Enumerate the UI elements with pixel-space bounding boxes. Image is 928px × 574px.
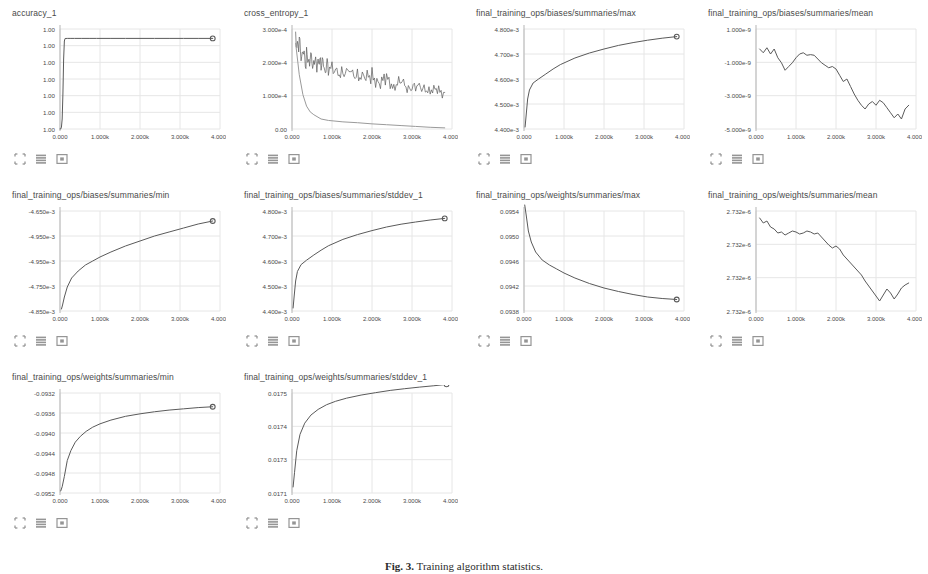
expand-axes-icon[interactable] — [478, 153, 490, 165]
chart-card: cross_entropy_13.000e-42.000e-41.000e-40… — [232, 0, 464, 182]
chart-svg[interactable]: 0.09540.09500.09460.09420.09380.0001.000… — [472, 203, 690, 331]
data-table-icon[interactable] — [267, 153, 279, 165]
y-axis-tick-label: 2.000e-4 — [263, 59, 288, 66]
y-axis-tick-label: 4.800e-3 — [263, 208, 288, 215]
fullscreen-icon[interactable] — [752, 153, 764, 165]
y-axis-tick-label: 1.00 — [43, 76, 56, 83]
x-axis-tick-label: 1.000k — [787, 134, 806, 140]
expand-axes-icon[interactable] — [710, 153, 722, 165]
chart-svg[interactable]: 0.01750.01740.01730.01710.0001.000k2.000… — [240, 385, 458, 513]
x-axis-tick-label: 3.000k — [635, 316, 654, 322]
chart-svg[interactable]: 4.800e-34.700e-34.600e-34.500e-34.400e-3… — [472, 21, 690, 149]
fullscreen-icon[interactable] — [520, 153, 532, 165]
expand-axes-icon[interactable] — [246, 153, 258, 165]
expand-axes-icon[interactable] — [14, 153, 26, 165]
fullscreen-icon[interactable] — [288, 153, 300, 165]
expand-axes-icon[interactable] — [246, 335, 258, 347]
y-axis-tick-label: 1.00 — [43, 92, 56, 99]
chart-line-series — [296, 43, 445, 128]
fullscreen-icon[interactable] — [56, 517, 68, 529]
data-table-icon[interactable] — [499, 153, 511, 165]
fullscreen-icon[interactable] — [56, 153, 68, 165]
fullscreen-icon[interactable] — [520, 335, 532, 347]
expand-axes-icon[interactable] — [14, 335, 26, 347]
y-axis-tick-label: 0.0954 — [500, 208, 519, 215]
y-axis-tick-label: -0.0944 — [34, 450, 56, 457]
x-axis-tick-label: 4.000k — [443, 134, 458, 140]
y-axis-tick-label: -0.0936 — [34, 410, 56, 417]
y-axis-tick-label: -3.000e-9 — [725, 92, 752, 99]
data-table-icon[interactable] — [499, 335, 511, 347]
chart-toolbar — [14, 334, 226, 348]
data-table-icon[interactable] — [35, 335, 47, 347]
chart-svg[interactable]: 4.800e-34.700e-34.600e-34.500e-34.400e-3… — [240, 203, 458, 331]
chart-line-series — [760, 218, 909, 301]
fullscreen-icon[interactable] — [752, 335, 764, 347]
y-axis-tick-label: 1.00 — [43, 126, 56, 133]
data-table-icon[interactable] — [35, 517, 47, 529]
y-axis-tick-label: -4.750e-3 — [29, 283, 56, 290]
chart-svg[interactable]: 1.000e-9-1.000e-9-3.000e-9-5.000e-90.000… — [704, 21, 922, 149]
chart-plot-area[interactable]: 0.01750.01740.01730.01710.0001.000k2.000… — [240, 385, 458, 513]
x-axis-tick-label: 3.000k — [867, 134, 886, 140]
data-table-icon[interactable] — [267, 335, 279, 347]
chart-plot-area[interactable]: 1.000e-9-1.000e-9-3.000e-9-5.000e-90.000… — [704, 21, 922, 149]
x-axis-tick-label: 1.000k — [555, 134, 574, 140]
y-axis-tick-label: -4.650e-3 — [29, 208, 56, 215]
data-table-icon[interactable] — [731, 153, 743, 165]
chart-plot-area[interactable]: 0.09540.09500.09460.09420.09380.0001.000… — [472, 203, 690, 331]
charts-grid: accuracy_11.001.001.001.001.001.001.000.… — [0, 0, 928, 546]
x-axis-tick-label: 3.000k — [867, 316, 886, 322]
chart-plot-area[interactable]: 3.000e-42.000e-41.000e-40.000.0001.000k2… — [240, 21, 458, 149]
x-axis-tick-label: 3.000k — [171, 134, 190, 140]
chart-line-series — [525, 37, 677, 127]
x-axis-tick-label: 2.000k — [363, 316, 382, 322]
chart-plot-area[interactable]: -0.0932-0.0936-0.0940-0.0944-0.0948-0.09… — [8, 385, 226, 513]
figure-caption-label: Fig. 3. — [385, 560, 414, 572]
expand-axes-icon[interactable] — [14, 517, 26, 529]
chart-title: final_training_ops/biases/summaries/max — [476, 8, 690, 19]
expand-axes-icon[interactable] — [246, 517, 258, 529]
chart-plot-area[interactable]: 2.732e-62.732e-62.732e-62.732e-60.0001.0… — [704, 203, 922, 331]
chart-svg[interactable]: 1.001.001.001.001.001.001.000.0001.000k2… — [8, 21, 226, 149]
x-axis-tick-label: 0.000 — [52, 316, 68, 322]
y-axis-tick-label: 0.0174 — [268, 423, 287, 430]
fullscreen-icon[interactable] — [288, 517, 300, 529]
chart-title: final_training_ops/weights/summaries/min — [12, 372, 226, 383]
x-axis-tick-label: 2.000k — [363, 134, 382, 140]
chart-plot-area[interactable]: 1.001.001.001.001.001.001.000.0001.000k2… — [8, 21, 226, 149]
y-axis-tick-label: 2.732e-6 — [727, 208, 752, 215]
y-axis-tick-label: 1.00 — [43, 42, 56, 49]
fullscreen-icon[interactable] — [288, 335, 300, 347]
chart-svg[interactable]: -0.0932-0.0936-0.0940-0.0944-0.0948-0.09… — [8, 385, 226, 513]
chart-title: final_training_ops/biases/summaries/mean — [708, 8, 922, 19]
expand-axes-icon[interactable] — [478, 335, 490, 347]
chart-svg[interactable]: -4.650e-3-4.950e-3-4.950e-3-4.750e-3-4.8… — [8, 203, 226, 331]
x-axis-tick-label: 2.000k — [595, 134, 614, 140]
x-axis-tick-label: 2.000k — [131, 316, 150, 322]
y-axis-tick-label: 1.00 — [43, 59, 56, 66]
chart-card: final_training_ops/weights/summaries/min… — [0, 364, 232, 546]
data-table-icon[interactable] — [731, 335, 743, 347]
y-axis-tick-label: 2.732e-6 — [727, 308, 752, 315]
chart-card: final_training_ops/biases/summaries/max4… — [464, 0, 696, 182]
chart-svg[interactable]: 3.000e-42.000e-41.000e-40.000.0001.000k2… — [240, 21, 458, 149]
data-table-icon[interactable] — [35, 153, 47, 165]
x-axis-tick-label: 2.000k — [595, 316, 614, 322]
figure-caption-text: Training algorithm statistics. — [417, 560, 543, 572]
y-axis-tick-label: 2.732e-6 — [727, 241, 752, 248]
chart-plot-area[interactable]: -4.650e-3-4.950e-3-4.950e-3-4.750e-3-4.8… — [8, 203, 226, 331]
x-axis-tick-label: 1.000k — [91, 498, 110, 504]
chart-svg[interactable]: 2.732e-62.732e-62.732e-62.732e-60.0001.0… — [704, 203, 922, 331]
x-axis-tick-label: 4.000k — [443, 498, 458, 504]
chart-line-series — [293, 218, 445, 308]
x-axis-tick-label: 1.000k — [787, 316, 806, 322]
chart-plot-area[interactable]: 4.800e-34.700e-34.600e-34.500e-34.400e-3… — [472, 21, 690, 149]
y-axis-tick-label: 1.00 — [43, 109, 56, 116]
data-table-icon[interactable] — [267, 517, 279, 529]
expand-axes-icon[interactable] — [710, 335, 722, 347]
chart-title: cross_entropy_1 — [244, 8, 458, 19]
chart-plot-area[interactable]: 4.800e-34.700e-34.600e-34.500e-34.400e-3… — [240, 203, 458, 331]
chart-toolbar — [246, 152, 458, 166]
fullscreen-icon[interactable] — [56, 335, 68, 347]
